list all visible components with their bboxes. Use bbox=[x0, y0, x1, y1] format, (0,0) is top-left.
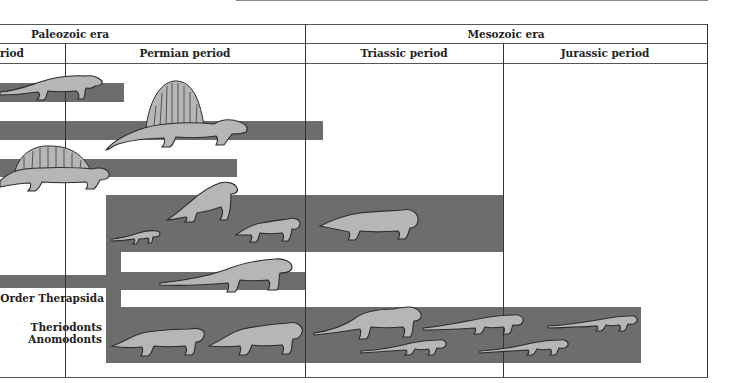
mammal-like-icon-3 bbox=[480, 336, 570, 358]
dinocephalian-icon bbox=[165, 180, 240, 225]
small-therapsid-icon bbox=[112, 226, 162, 246]
period-triassic: Triassic period bbox=[305, 44, 503, 62]
therapsida-gap-right bbox=[305, 252, 503, 307]
period-carboniferous: riod bbox=[0, 44, 26, 62]
dimetrodon-icon bbox=[104, 78, 254, 153]
dicynodont-icon bbox=[236, 213, 302, 245]
label-anomodonts: Anomodonts bbox=[0, 333, 102, 346]
period-jurassic: Jurassic period bbox=[503, 44, 707, 62]
header-bottom-border bbox=[0, 63, 708, 64]
cynodont-icon bbox=[423, 310, 525, 336]
edaphosaurus-icon bbox=[0, 143, 112, 193]
label-order-therapsida: Order Therapsida bbox=[0, 292, 104, 305]
period-permian: Permian period bbox=[65, 44, 305, 62]
pelycosaur-icon bbox=[0, 70, 105, 105]
anomodont-icon bbox=[112, 320, 207, 360]
mammal-like-icon-2 bbox=[361, 336, 447, 358]
table-right-border bbox=[707, 24, 708, 377]
era-paleozoic: Paleozoic era bbox=[0, 25, 140, 43]
table-bottom-border bbox=[0, 377, 708, 378]
therapsida-stem-bar bbox=[0, 275, 106, 288]
theriodont-bottom-icon bbox=[208, 318, 304, 360]
top-rule bbox=[236, 0, 708, 1]
mammal-like-icon-1 bbox=[548, 311, 638, 333]
theriodont-icon bbox=[160, 255, 295, 295]
era-mesozoic: Mesozoic era bbox=[305, 25, 707, 43]
lystrosaurus-icon bbox=[320, 206, 420, 242]
permian-divider-overlay bbox=[305, 63, 306, 377]
